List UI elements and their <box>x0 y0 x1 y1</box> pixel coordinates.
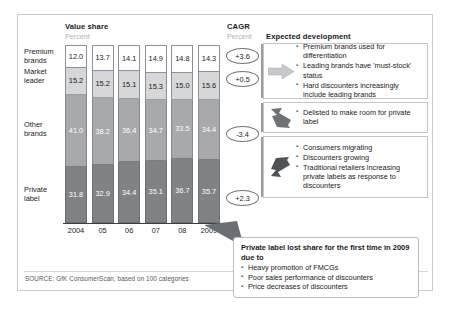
bar-segment: 38.2 <box>92 98 114 165</box>
row-label-line: Other <box>24 120 42 129</box>
x-tick-label: 06 <box>118 226 140 235</box>
cagr-badge-private-label: +2.3 <box>226 190 259 206</box>
row-label-line: Premium <box>24 47 54 56</box>
row-label-other-brands: Otherbrands <box>24 120 66 138</box>
bar-segment: 13.7 <box>92 45 114 71</box>
callout-title: Private label lost share for the first t… <box>241 243 412 262</box>
bar-segment: 32.9 <box>92 165 114 223</box>
cagr-header: CAGR <box>227 22 250 31</box>
bar-segment: 15.1 <box>118 71 140 98</box>
row-label-line: leader <box>24 76 45 85</box>
bar-06[interactable]: 14.115.136.434.4 <box>118 45 140 223</box>
bar-2004[interactable]: 12.015.241.031.8 <box>65 45 87 223</box>
bar-05[interactable]: 13.715.238.232.9 <box>92 45 114 223</box>
row-label-line: Market <box>24 67 47 76</box>
bar-group: 12.015.241.031.813.715.238.232.914.115.1… <box>65 45 220 223</box>
bar-segment: 31.8 <box>65 167 87 223</box>
panel-text: Premium brands used for differentiationL… <box>296 42 423 100</box>
panel-bullet: Leading brands have 'must-stock' status <box>296 61 423 80</box>
bar-segment: 14.3 <box>198 45 220 72</box>
bar-segment: 15.3 <box>145 73 167 100</box>
bar-2009[interactable]: 14.315.634.435.7 <box>198 45 220 223</box>
row-label-line: brands <box>24 56 47 65</box>
development-panel: Premium brands used for differentiationL… <box>263 43 428 99</box>
bar-segment: 36.4 <box>118 99 140 163</box>
callout-bullet: Poor sales performance of discounters <box>241 273 412 283</box>
bar-segment: 35.7 <box>198 160 220 223</box>
bar-segment: 33.5 <box>171 100 193 159</box>
panel-text: Consumers migratingDiscounters growingTr… <box>296 143 423 192</box>
expected-development-header: Expected development <box>266 32 351 41</box>
panel-bullet: Discounters growing <box>296 153 423 162</box>
panel-bullet-list: Delisted to make room for private label <box>296 108 423 127</box>
arrow-right-icon <box>266 64 296 79</box>
callout-bullet: Heavy promotion of FMCGs <box>241 263 412 273</box>
panel-bullet: Traditional retailers increasing private… <box>296 163 423 191</box>
panel-text: Delisted to make room for private label <box>296 108 423 127</box>
bar-segment: 15.6 <box>198 72 220 100</box>
value-share-header: Value share <box>65 22 108 31</box>
bar-segment: 36.7 <box>171 159 193 223</box>
development-panel: Consumers migratingDiscounters growingTr… <box>263 136 428 198</box>
cagr-unit: Percent <box>227 32 252 41</box>
panel-bullet-list: Consumers migratingDiscounters growingTr… <box>296 143 423 191</box>
bar-segment: 34.7 <box>145 100 167 161</box>
callout-bullet-list: Heavy promotion of FMCGsPoor sales perfo… <box>241 263 412 292</box>
x-axis-tick-labels: 2004050607082009 <box>65 226 220 235</box>
x-tick-label: 08 <box>171 226 193 235</box>
row-label-line: Private <box>24 185 47 194</box>
bar-segment: 34.4 <box>118 162 140 223</box>
x-tick-label: 2004 <box>65 226 87 235</box>
bar-segment: 15.2 <box>92 71 114 98</box>
bar-segment: 14.1 <box>118 45 140 71</box>
panel-bullet: Premium brands used for differentiation <box>296 42 423 61</box>
stacked-bar-chart: 12.015.241.031.813.715.238.232.914.115.1… <box>65 45 220 230</box>
panel-bullet: Hard discounters increasingly include le… <box>296 81 423 100</box>
cagr-badge-market-leader: +0.5 <box>226 71 259 87</box>
bar-segment: 35.1 <box>145 161 167 223</box>
expected-development-panels: Premium brands used for differentiationL… <box>263 43 428 201</box>
bar-segment: 14.8 <box>171 45 193 73</box>
row-label-private-label: Privatelabel <box>24 185 66 203</box>
arrow-up-right-icon <box>266 156 296 178</box>
bar-07[interactable]: 14.915.334.735.1 <box>145 45 167 223</box>
bar-segment: 41.0 <box>65 95 87 167</box>
row-label-premium-brands: Premiumbrands <box>24 47 66 65</box>
bar-segment: 15.2 <box>65 68 87 95</box>
bar-segment: 14.9 <box>145 45 167 73</box>
cagr-badge-premium-brands: +3.6 <box>226 48 259 64</box>
x-axis-line <box>63 223 222 224</box>
callout-box: Private label lost share for the first t… <box>233 237 419 298</box>
row-label-line: label <box>24 194 40 203</box>
bar-segment: 12.0 <box>65 45 87 68</box>
bar-segment: 34.4 <box>198 100 220 161</box>
arrow-down-right-icon <box>266 107 296 129</box>
callout-bullet: Price decreases of discounters <box>241 282 412 292</box>
bar-segment: 15.0 <box>171 73 193 100</box>
panel-bullet-list: Premium brands used for differentiationL… <box>296 42 423 99</box>
cagr-badge-other-brands: -3.4 <box>226 126 259 142</box>
x-tick-label: 05 <box>92 226 114 235</box>
value-share-unit: Percent <box>65 32 90 41</box>
slide-frame: Value share Percent CAGR Percent Expecte… <box>17 14 433 291</box>
row-label-market-leader: Marketleader <box>24 67 66 85</box>
panel-bullet: Delisted to make room for private label <box>296 108 423 127</box>
row-label-line: brands <box>24 129 47 138</box>
bar-08[interactable]: 14.815.033.536.7 <box>171 45 193 223</box>
panel-bullet: Consumers migrating <box>296 143 423 152</box>
x-tick-label: 07 <box>145 226 167 235</box>
source-note: SOURCE: GfK ConsumerScan, based on 100 c… <box>25 275 189 282</box>
development-panel: Delisted to make room for private label <box>263 102 428 133</box>
